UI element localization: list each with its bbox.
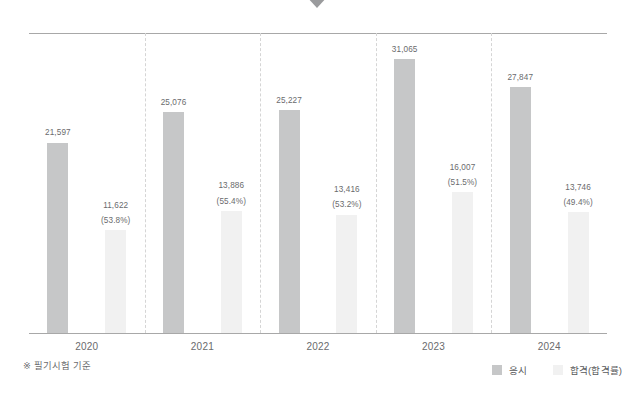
bar-rate-label: (51.5%) [448,177,477,188]
bar-slot-passers: 11,622 (53.8%) [87,33,145,333]
bar-value-label: 16,007 (51.5%) [448,162,477,192]
bar-value-label: 25,076 [161,97,187,112]
legend-item-passers[interactable]: 합격(합격률) [553,363,622,377]
bar-passers[interactable]: 13,886 (55.4%) [221,211,242,333]
year-group-2021: 25,076 13,886 (55.4%) [145,33,261,333]
plot-area: 21,597 11,622 (53.8%) 25,076 [29,33,607,333]
bar-slot-passers: 16,007 (51.5%) [434,33,492,333]
bar-applicants[interactable]: 27,847 [510,87,531,333]
bar-passers[interactable]: 16,007 (51.5%) [452,192,473,333]
bar-slot-passers: 13,416 (53.2%) [318,33,376,333]
x-tick-2020: 2020 [29,337,145,359]
bar-rate-label: (49.4%) [563,197,592,208]
year-group-2022: 25,227 13,416 (53.2%) [260,33,376,333]
bar-applicants[interactable]: 21,597 [47,143,68,334]
bar-rate-label: (53.8%) [101,215,130,226]
bar-passers[interactable]: 13,416 (53.2%) [336,215,357,334]
bar-slot-applicants: 27,847 [491,33,549,333]
bar-slot-passers: 13,886 (55.4%) [202,33,260,333]
chart-page: 21,597 11,622 (53.8%) 25,076 [0,0,634,399]
year-group-2020: 21,597 11,622 (53.8%) [29,33,145,333]
x-tick-2022: 2022 [260,337,376,359]
bar-value-label: 13,746 (49.4%) [563,182,592,212]
bar-passers[interactable]: 11,622 (53.8%) [105,230,126,333]
bar-value-label: 13,416 (53.2%) [332,184,361,214]
chart-footnote: ※ 필기시험 기준 [23,358,91,372]
chart-legend: 응시 합격(합격률) [492,363,622,377]
legend-swatch-applicants [492,365,502,375]
year-group-2023: 31,065 16,007 (51.5%) [376,33,492,333]
legend-label-passers: 합격(합격률) [570,363,622,377]
bar-slot-applicants: 25,227 [260,33,318,333]
x-tick-2023: 2023 [376,337,492,359]
x-tick-2021: 2021 [145,337,261,359]
bar-value-label: 31,065 [392,44,418,59]
bar-rate-label: (55.4%) [217,196,246,207]
bar-slot-passers: 13,746 (49.4%) [549,33,607,333]
legend-item-applicants[interactable]: 응시 [492,363,527,377]
bar-value-label: 21,597 [45,127,71,142]
bar-value-label: 11,622 (53.8%) [101,200,130,230]
x-axis-labels: 2020 2021 2022 2023 2024 [29,337,607,359]
bar-value-label: 13,886 (55.4%) [217,180,246,210]
bar-slot-applicants: 21,597 [29,33,87,333]
chevron-down-icon [306,0,328,10]
bar-slot-applicants: 25,076 [145,33,203,333]
bar-applicants[interactable]: 31,065 [394,59,415,333]
legend-swatch-passers [553,365,563,375]
bar-applicants[interactable]: 25,076 [163,112,184,333]
bar-passers[interactable]: 13,746 (49.4%) [568,212,589,333]
bar-slot-applicants: 31,065 [376,33,434,333]
bar-value-label: 25,227 [276,95,302,110]
legend-label-applicants: 응시 [509,363,527,377]
bar-value-label: 27,847 [507,72,533,87]
bar-applicants[interactable]: 25,227 [279,110,300,333]
year-group-2024: 27,847 13,746 (49.4%) [491,33,607,333]
x-tick-2024: 2024 [491,337,607,359]
bar-rate-label: (53.2%) [332,199,361,210]
